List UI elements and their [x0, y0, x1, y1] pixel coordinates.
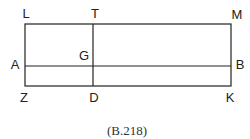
label-l: L: [22, 7, 29, 20]
label-t: T: [91, 7, 99, 20]
figure-caption: (B.218): [107, 123, 147, 139]
rectangle-lmkz: [25, 24, 231, 86]
label-d: D: [89, 91, 98, 104]
label-b: B: [236, 58, 245, 71]
label-z: Z: [20, 91, 28, 104]
label-g: G: [79, 49, 89, 62]
geometry-figure: [0, 0, 250, 139]
label-m: M: [232, 8, 243, 21]
label-a: A: [11, 58, 20, 71]
label-k: K: [226, 91, 235, 104]
